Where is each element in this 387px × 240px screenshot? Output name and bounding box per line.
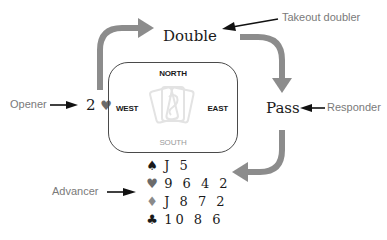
- playing-cards-icon: [147, 81, 199, 133]
- pointer-arrow-advancer: [107, 188, 136, 196]
- pass-bid: Pass: [266, 99, 300, 117]
- responder-label: Responder: [327, 101, 381, 113]
- opener-label: Opener: [10, 98, 47, 110]
- double-bid: Double: [163, 27, 217, 45]
- club-cards: 10 8 6: [164, 212, 223, 227]
- pointer-arrow-takeout-doubler: [222, 19, 278, 31]
- north-label: NORTH: [109, 69, 237, 78]
- east-label: EAST: [207, 104, 228, 113]
- advancer-label: Advancer: [52, 185, 98, 197]
- south-label: SOUTH: [109, 138, 237, 147]
- heart-cards: 9 6 4 2: [164, 176, 230, 191]
- hand-row-hearts: ♥ 9 6 4 2: [144, 175, 231, 192]
- club-suit-icon: ♣: [144, 211, 160, 228]
- bridge-table: NORTH SOUTH WEST EAST: [108, 62, 238, 153]
- hand-row-spades: ♠ J 5: [144, 157, 191, 174]
- diamond-cards: J 8 7 2: [164, 194, 227, 209]
- opener-bid-level: 2: [86, 96, 96, 114]
- west-label: WEST: [116, 104, 138, 113]
- diamond-suit-icon: ♦: [144, 193, 160, 210]
- spade-cards: J 5: [164, 158, 191, 173]
- pointer-arrow-opener: [50, 101, 78, 109]
- hand-row-diamonds: ♦ J 8 7 2: [144, 193, 228, 210]
- hand-row-clubs: ♣ 10 8 6: [144, 211, 224, 228]
- heart-suit-icon: ♥: [144, 175, 160, 192]
- pointer-arrow-responder: [300, 104, 325, 112]
- takeout-doubler-label: Takeout doubler: [282, 11, 360, 23]
- flow-arrow-doubler-to-responder: [240, 37, 292, 93]
- flow-arrow-responder-to-advancer: [232, 130, 282, 182]
- spade-suit-icon: ♠: [144, 157, 160, 174]
